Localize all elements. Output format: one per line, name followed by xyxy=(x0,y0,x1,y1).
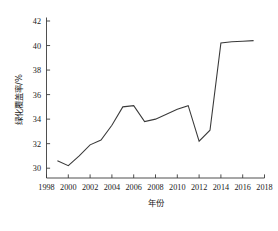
x-axis-title: 年份 xyxy=(148,198,165,208)
x-tick-label-2004: 2004 xyxy=(104,183,120,192)
y-tick-label-32: 32 xyxy=(33,140,41,149)
y-axis: 30323436384042 xyxy=(33,17,50,178)
x-tick-label-2006: 2006 xyxy=(126,183,142,192)
data-series-line xyxy=(57,41,253,166)
x-tick-label-group: 1998200020022004200620082010201220142016… xyxy=(38,183,272,192)
y-tick-label-30: 30 xyxy=(33,164,41,173)
x-tick-label-2012: 2012 xyxy=(191,183,207,192)
x-axis: 1998200020022004200620082010201220142016… xyxy=(38,174,272,191)
x-tick-label-2016: 2016 xyxy=(235,183,251,192)
x-tick-label-2008: 2008 xyxy=(147,183,163,192)
x-tick-label-2018: 2018 xyxy=(256,183,272,192)
x-tick-label-2002: 2002 xyxy=(82,183,98,192)
y-tick-label-34: 34 xyxy=(33,115,41,124)
x-tick-label-2014: 2014 xyxy=(213,183,229,192)
x-tick-label-1998: 1998 xyxy=(38,183,54,192)
chart-canvas: 30323436384042 1998200020022004200620082… xyxy=(0,0,278,231)
y-tick-label-42: 42 xyxy=(33,17,41,26)
x-tick-label-2010: 2010 xyxy=(169,183,185,192)
series-group xyxy=(57,41,253,166)
y-tick-label-38: 38 xyxy=(33,66,41,75)
y-tick-group xyxy=(47,21,51,168)
line-chart: 30323436384042 1998200020022004200620082… xyxy=(0,0,278,231)
x-tick-label-2000: 2000 xyxy=(60,183,76,192)
y-tick-label-36: 36 xyxy=(33,91,41,100)
x-tick-group xyxy=(47,174,265,178)
y-axis-title: 绿化覆盖率/% xyxy=(14,74,24,125)
y-tick-label-40: 40 xyxy=(33,42,41,51)
y-tick-label-group: 30323436384042 xyxy=(33,17,41,173)
